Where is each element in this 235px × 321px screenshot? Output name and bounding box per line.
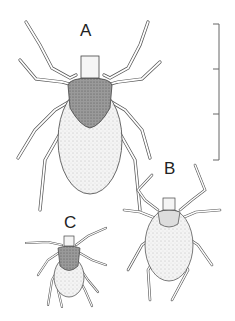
tick-c [26, 228, 106, 307]
tick-a [18, 22, 160, 210]
tick-illustration [0, 0, 235, 321]
scale-bar [213, 24, 219, 160]
